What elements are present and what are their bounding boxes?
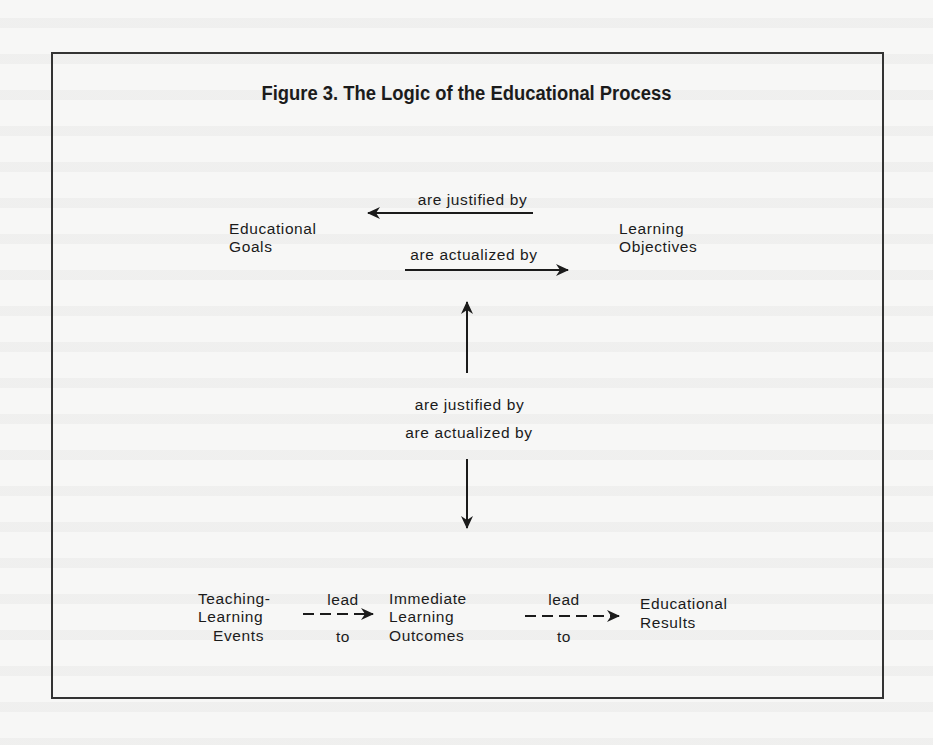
edge-label-objectives-to-events: are actualized by (394, 424, 544, 442)
node-immediate-learning-outcomes-line-3: Outcomes (389, 627, 464, 645)
edge-label-goals-to-objectives: are actualized by (400, 246, 548, 264)
node-educational-goals-line-1: Educational (229, 220, 317, 238)
node-learning-objectives-line-1: Learning (619, 220, 684, 238)
figure-frame (51, 52, 884, 699)
edge-label-objectives-to-goals: are justified by (405, 191, 540, 209)
node-immediate-learning-outcomes-line-2: Learning (389, 608, 454, 626)
edge-label-events-to-outcomes-bottom: to (318, 628, 368, 646)
node-educational-results-line-1: Educational (640, 595, 728, 613)
node-teaching-learning-events-line-2: Learning (198, 608, 263, 626)
node-learning-objectives-line-2: Objectives (619, 238, 697, 256)
node-educational-results-line-2: Results (640, 614, 696, 632)
node-educational-goals-line-2: Goals (229, 238, 273, 256)
edge-label-outcomes-to-results-bottom: to (539, 628, 589, 646)
edge-label-events-to-outcomes-top: lead (318, 591, 368, 609)
edge-label-outcomes-to-results-top: lead (539, 591, 589, 609)
figure-title: Figure 3. The Logic of the Educational P… (37, 82, 895, 105)
node-immediate-learning-outcomes-line-1: Immediate (389, 590, 467, 608)
node-teaching-learning-events-line-3: Events (213, 627, 264, 645)
node-teaching-learning-events-line-1: Teaching- (198, 590, 271, 608)
edge-label-events-to-objectives: are justified by (402, 396, 537, 414)
